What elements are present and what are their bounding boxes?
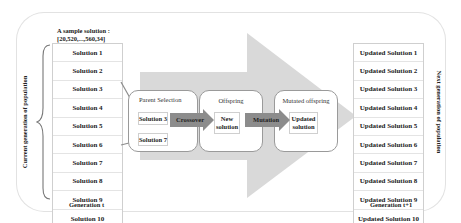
list-item: Updated Solution 8 bbox=[354, 173, 423, 191]
list-item: Updated Solution 2 bbox=[354, 62, 423, 80]
generation-t1-label: Generation t+1 bbox=[370, 201, 412, 208]
list-item: Updated Solution 10 bbox=[354, 210, 423, 223]
next-generation-label: Next generation of population bbox=[436, 71, 443, 154]
list-item: Updated Solution 7 bbox=[354, 154, 423, 172]
list-item: Updated Solution 3 bbox=[354, 81, 423, 99]
list-item: Updated Solution 6 bbox=[354, 136, 423, 154]
list-item: Updated Solution 4 bbox=[354, 99, 423, 117]
mutation-label: Mutation bbox=[253, 116, 279, 123]
crossover-label: Crossover bbox=[176, 116, 204, 123]
list-item: Updated Solution 1 bbox=[354, 44, 423, 62]
list-item: Updated Solution 5 bbox=[354, 118, 423, 136]
next-population-list: Updated Solution 1 Updated Solution 2 Up… bbox=[353, 43, 424, 223]
